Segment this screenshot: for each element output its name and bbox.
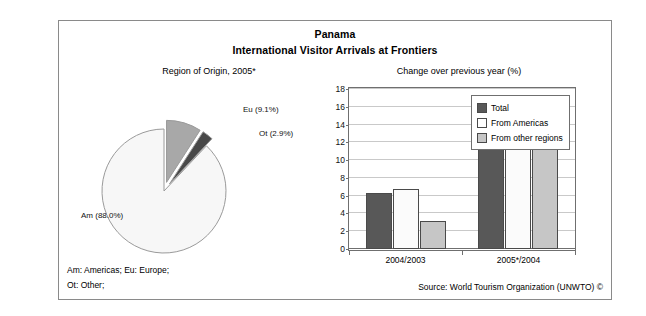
bar-group-1	[350, 89, 462, 249]
legend-swatch-from-other-regions	[477, 133, 487, 143]
pie-slice-label-ot: Ot (2.9%)	[259, 129, 293, 138]
legend-item-total: Total	[477, 100, 563, 115]
y-axis-tick-2: 2	[340, 226, 345, 236]
y-axis-tick-mark-6	[346, 196, 349, 197]
y-axis-tick-mark-10	[346, 160, 349, 161]
y-axis-tick-mark-0	[346, 249, 349, 250]
y-axis-tick-mark-18	[346, 89, 349, 90]
legend-label-from-other-regions: From other regions	[491, 133, 563, 143]
y-axis-tick-mark-12	[346, 142, 349, 143]
legend-item-from-other-regions: From other regions	[477, 130, 563, 145]
legend-swatch-from-americas	[477, 118, 487, 128]
y-axis-tick-0: 0	[340, 244, 345, 254]
bar-chart: 024681012141618 2004/20032005*/2004 Tota…	[321, 81, 606, 281]
footnote-abbreviations-line1: Am: Americas; Eu: Europe;	[67, 265, 169, 275]
bar-2004-2003-total	[366, 193, 392, 249]
figure-panel: Panama International Visitor Arrivals at…	[58, 20, 612, 300]
pie-slice-label-eu: Eu (9.1%)	[243, 105, 279, 114]
legend-item-from-americas: From Americas	[477, 115, 563, 130]
x-axis-label-1: 2004/2003	[349, 255, 462, 265]
y-axis-tick-6: 6	[340, 191, 345, 201]
pie-chart: Eu (9.1%) Ot (2.9%) Am (88.0%)	[79, 81, 329, 266]
y-axis-tick-16: 16	[336, 102, 345, 112]
legend-label-from-americas: From Americas	[491, 118, 548, 128]
source-note: Source: World Tourism Organization (UNWT…	[418, 282, 603, 292]
pie-slice-am	[102, 129, 226, 253]
page-title: Panama	[59, 28, 611, 40]
bar-2004-2003-from-other-regions	[420, 221, 446, 249]
y-axis-tick-14: 14	[336, 120, 345, 130]
footnote-abbreviations-line2: Ot: Other;	[67, 280, 104, 290]
bar-chart-x-axis-labels: 2004/20032005*/2004	[349, 255, 575, 265]
pie-chart-caption: Region of Origin, 2005*	[99, 66, 319, 76]
y-axis-tick-mark-8	[346, 178, 349, 179]
figure-root: Panama International Visitor Arrivals at…	[0, 0, 646, 316]
y-axis-tick-mark-14	[346, 125, 349, 126]
y-axis-tick-mark-16	[346, 107, 349, 108]
pie-chart-svg	[79, 81, 329, 266]
y-axis-tick-8: 8	[340, 173, 345, 183]
y-axis-tick-4: 4	[340, 208, 345, 218]
y-axis-tick-mark-4	[346, 213, 349, 214]
y-axis-tick-10: 10	[336, 155, 345, 165]
x-axis-label-2: 2005*/2004	[462, 255, 575, 265]
y-axis-tick-mark-2	[346, 231, 349, 232]
y-axis-tick-12: 12	[336, 137, 345, 147]
page-subtitle: International Visitor Arrivals at Fronti…	[59, 44, 611, 56]
bar-chart-caption: Change over previous year (%)	[329, 66, 589, 76]
pie-slice-label-am: Am (88.0%)	[81, 211, 123, 220]
legend-label-total: Total	[491, 103, 509, 113]
legend-swatch-total	[477, 103, 487, 113]
bar-2004-2003-from-americas	[393, 189, 419, 249]
y-axis-tick-18: 18	[336, 84, 345, 94]
bar-chart-legend: Total From Americas From other regions	[471, 95, 570, 150]
x-axis-tick-2	[575, 251, 576, 255]
